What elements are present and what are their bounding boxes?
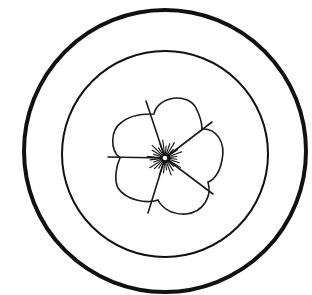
diagram-canvas — [0, 0, 312, 295]
flower-center — [162, 155, 168, 161]
